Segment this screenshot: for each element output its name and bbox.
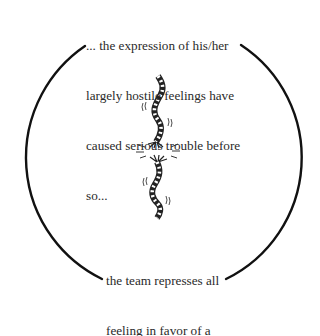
top-caption-line: so... bbox=[86, 188, 240, 205]
top-caption: ... the expression of his/her largely ho… bbox=[86, 5, 240, 221]
top-caption-line: ... the expression of his/her bbox=[86, 38, 240, 55]
bottom-caption-line: feeling in favor of a bbox=[106, 323, 223, 336]
top-caption-line: caused serious trouble before bbox=[86, 138, 240, 155]
bottom-caption-line: the team represses all bbox=[106, 273, 223, 290]
bottom-caption: the team represses all feeling in favor … bbox=[106, 240, 223, 336]
top-caption-line: largely hostile feelings have bbox=[86, 88, 240, 105]
